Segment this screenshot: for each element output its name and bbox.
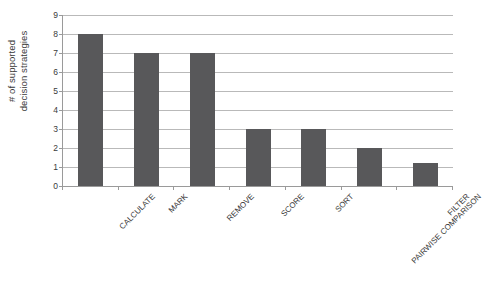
x-axis-category-label: CALCULATE xyxy=(117,192,156,231)
y-axis-tick-label: 3 xyxy=(40,125,58,134)
y-axis-title: # of supported decision strategies xyxy=(3,1,33,141)
bar xyxy=(301,129,326,186)
bar xyxy=(190,53,215,186)
x-axis-tickmark xyxy=(118,186,119,190)
y-axis-title-line-2: decision strategies xyxy=(18,31,30,112)
x-axis-tickmark xyxy=(452,186,453,190)
y-axis-tick-label: 4 xyxy=(40,106,58,115)
x-axis-category-label-text: SCORE xyxy=(279,192,305,218)
bar xyxy=(78,34,103,186)
y-axis-tick-labels: 0123456789 xyxy=(40,9,58,193)
bar xyxy=(357,148,382,186)
x-axis-category-label-text: CALCULATE xyxy=(117,192,156,231)
x-axis-tickmark xyxy=(396,186,397,190)
bar xyxy=(413,163,438,186)
x-axis-category-labels: CALCULATEMARKREMOVESCORESORTPAIRWISE COM… xyxy=(62,192,462,287)
y-axis-tick-label: 2 xyxy=(40,144,58,153)
y-axis-title-line-1: # of supported xyxy=(6,40,18,102)
x-axis-category-label-text: MARK xyxy=(166,192,189,215)
x-axis-tickmark xyxy=(173,186,174,190)
x-axis-tickmark xyxy=(341,186,342,190)
x-axis-tickmark xyxy=(62,186,63,190)
bar xyxy=(246,129,271,186)
bar xyxy=(134,53,159,186)
x-axis-tickmarks xyxy=(62,186,452,191)
x-axis-tickmark xyxy=(229,186,230,190)
x-axis-category-label: REMOVE xyxy=(225,192,256,223)
y-axis-tick-label: 1 xyxy=(40,163,58,172)
x-axis-category-label-text: REMOVE xyxy=(225,192,256,223)
x-axis-category-label: PAIRWISE COMPARISON xyxy=(410,192,483,265)
y-axis-tick-label: 6 xyxy=(40,68,58,77)
x-axis-tickmark xyxy=(285,186,286,190)
x-axis-category-label-text: PAIRWISE COMPARISON xyxy=(410,192,483,265)
y-axis-tick-label: 7 xyxy=(40,49,58,58)
y-axis-tick-label: 9 xyxy=(40,11,58,20)
x-axis-category-label: SORT xyxy=(333,192,355,214)
x-axis-category-label-text: SORT xyxy=(333,192,355,214)
y-axis-tick-label: 0 xyxy=(40,182,58,191)
y-axis-tick-label: 8 xyxy=(40,30,58,39)
bars-layer xyxy=(63,15,453,186)
x-axis-category-label: MARK xyxy=(166,192,189,215)
plot-area xyxy=(62,15,453,187)
y-axis-tick-label: 5 xyxy=(40,87,58,96)
x-axis-category-label: SCORE xyxy=(279,192,305,218)
